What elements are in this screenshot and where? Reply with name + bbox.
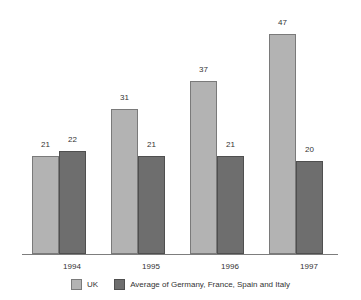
- bar-uk-1994[interactable]: 21: [32, 156, 59, 254]
- x-axis-line: [22, 254, 338, 255]
- bar-value-uk-1994: 21: [41, 141, 50, 149]
- bar-value-uk-1997: 47: [278, 19, 287, 27]
- bar-avg-1995[interactable]: 21: [138, 156, 165, 254]
- bar-uk-1997[interactable]: 47: [269, 34, 296, 254]
- bar-uk-1995[interactable]: 31: [111, 109, 138, 254]
- bar-value-avg-1994: 22: [68, 136, 77, 144]
- bar-avg-1997[interactable]: 20: [296, 161, 323, 254]
- bar-chart: 21 22 1994 31 21 1995 37 21 1996: [0, 0, 361, 300]
- legend-item-average[interactable]: Average of Germany, France, Spain and It…: [114, 279, 290, 290]
- bar-avg-1996[interactable]: 21: [217, 156, 244, 254]
- legend-label-uk: UK: [87, 280, 98, 289]
- bar-value-avg-1995: 21: [147, 141, 156, 149]
- x-axis-label-1994: 1994: [32, 262, 112, 271]
- plot-area: 21 22 1994 31 21 1995 37 21 1996: [0, 0, 361, 300]
- chart-legend: UK Average of Germany, France, Spain and…: [0, 279, 361, 290]
- x-axis-label-1995: 1995: [111, 262, 191, 271]
- bar-value-avg-1996: 21: [226, 141, 235, 149]
- bar-uk-1996[interactable]: 37: [190, 81, 217, 254]
- legend-label-average: Average of Germany, France, Spain and It…: [130, 280, 290, 289]
- bar-group-1996: 37 21: [190, 32, 270, 254]
- bar-group-1997: 47 20: [269, 32, 349, 254]
- bar-value-uk-1996: 37: [199, 66, 208, 74]
- bar-value-uk-1995: 31: [120, 94, 129, 102]
- x-axis-label-1997: 1997: [269, 262, 349, 271]
- bar-value-avg-1997: 20: [305, 146, 314, 154]
- x-axis-label-1996: 1996: [190, 262, 270, 271]
- bar-avg-1994[interactable]: 22: [59, 151, 86, 254]
- light-gray-swatch-icon: [71, 279, 82, 290]
- dark-gray-swatch-icon: [114, 279, 125, 290]
- bar-group-1995: 31 21: [111, 32, 191, 254]
- bar-group-1994: 21 22: [32, 32, 112, 254]
- legend-item-uk[interactable]: UK: [71, 279, 98, 290]
